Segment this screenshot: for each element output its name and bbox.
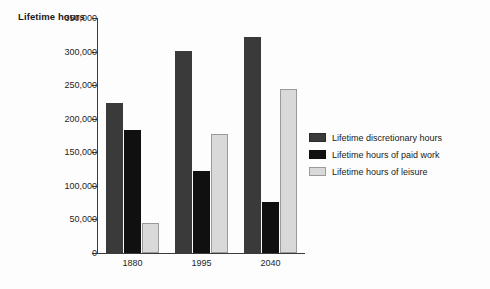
legend-item: Lifetime discretionary hours xyxy=(309,130,442,145)
legend-item: Lifetime hours of leisure xyxy=(309,164,442,179)
bar-group xyxy=(175,18,228,253)
bar xyxy=(211,134,228,253)
y-tick-label: 0 xyxy=(11,248,97,258)
legend-swatch-icon xyxy=(309,133,326,142)
bar-group xyxy=(244,18,297,253)
bar xyxy=(124,130,141,253)
y-tick-label: 350,000 xyxy=(11,13,97,23)
legend-label: Lifetime hours of leisure xyxy=(332,167,428,177)
y-tick-label: 200,000 xyxy=(11,114,97,124)
legend-item: Lifetime hours of paid work xyxy=(309,147,442,162)
bar-group xyxy=(106,18,159,253)
x-axis-label-1995: 1995 xyxy=(175,258,228,268)
bar-chart: Lifetime hours 050,000100,000150,000200,… xyxy=(0,0,490,289)
y-tick-label: 150,000 xyxy=(11,147,97,157)
bar xyxy=(280,89,297,254)
x-axis-label-1880: 1880 xyxy=(106,258,159,268)
x-axis-label-2040: 2040 xyxy=(244,258,297,268)
x-axis-line xyxy=(97,253,305,254)
bar xyxy=(106,103,123,253)
legend-swatch-icon xyxy=(309,150,326,159)
bar xyxy=(142,223,159,253)
legend-label: Lifetime discretionary hours xyxy=(332,133,442,143)
bar xyxy=(175,51,192,253)
bar xyxy=(193,171,210,253)
legend-label: Lifetime hours of paid work xyxy=(332,150,440,160)
chart-legend: Lifetime discretionary hoursLifetime hou… xyxy=(309,130,442,181)
y-tick-label: 100,000 xyxy=(11,181,97,191)
y-tick-label: 300,000 xyxy=(11,47,97,57)
bar xyxy=(244,37,261,253)
bar xyxy=(262,202,279,253)
y-tick-label: 50,000 xyxy=(11,214,97,224)
legend-swatch-icon xyxy=(309,167,326,176)
plot-area xyxy=(98,18,305,253)
y-tick-label: 250,000 xyxy=(11,80,97,90)
